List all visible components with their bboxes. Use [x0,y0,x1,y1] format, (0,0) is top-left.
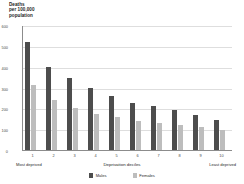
bar-group [44,26,65,150]
y-axis-title: Deaths per 100,000 population [9,2,79,18]
bar-females [31,85,36,150]
x-axis-title: Deprivation deciles [0,162,244,167]
bar-males [193,115,198,150]
bar-males [130,103,135,151]
bar-females [136,121,141,150]
bar-group [128,26,149,150]
bars-layer [23,26,232,150]
legend-item: Males [89,173,107,178]
y-axis-tick-label: 300 [0,87,8,92]
bar-group [23,26,44,150]
x-axis-tick-label: 9 [193,153,209,158]
bar-males [25,42,30,150]
bar-females [157,123,162,150]
bar-males [46,67,51,150]
bar-group [191,26,212,150]
x-axis-tick-label: 8 [172,153,188,158]
bar-males [109,96,114,150]
x-axis-tick-label: 5 [109,153,125,158]
y-axis-tick-label: 100 [0,128,8,133]
x-axis-tick-label: 4 [88,153,104,158]
x-axis-tick-label: 7 [151,153,167,158]
deprivation-deaths-bar-chart: Deaths per 100,000 population 0100200300… [0,0,244,184]
bar-males [88,88,93,150]
legend-item: Females [133,173,155,178]
bar-females [220,130,225,150]
y-axis-tick-label: 200 [0,107,8,112]
x-axis-right-end-label: Least deprived [209,162,236,167]
bar-group [170,26,191,150]
bar-group [212,26,233,150]
bar-females [94,114,99,150]
y-axis-tick-label: 0 [0,149,8,154]
chart-legend: MalesFemales [0,173,244,178]
y-axis-tick-label: 400 [0,66,8,71]
legend-label: Males [96,173,107,178]
y-axis-tick-label: 500 [0,45,8,50]
legend-label: Females [139,173,155,178]
bar-females [199,127,204,150]
x-axis-tick-label: 2 [46,153,62,158]
bar-females [115,117,120,150]
bar-group [107,26,128,150]
bar-males [214,120,219,150]
x-axis-tick-label: 1 [25,153,41,158]
x-axis-tick-label: 6 [130,153,146,158]
bar-males [172,110,177,150]
bar-males [67,78,72,150]
y-axis-title-line-3: population [9,13,79,18]
x-axis-tick-label: 3 [67,153,83,158]
legend-swatch [133,173,137,177]
y-axis-tick-label: 600 [0,24,8,29]
x-axis-tick-label: 10 [214,153,230,158]
bar-group [149,26,170,150]
bar-group [86,26,107,150]
bar-males [151,106,156,150]
plot-area: 0100200300400500600 [22,26,232,151]
bar-females [73,108,78,150]
bar-females [52,100,57,150]
legend-swatch [89,173,93,177]
bar-group [65,26,86,150]
bar-females [178,125,183,150]
